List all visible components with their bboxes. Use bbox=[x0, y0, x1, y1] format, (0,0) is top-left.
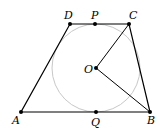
point-p bbox=[93, 22, 97, 26]
point-d bbox=[68, 22, 72, 26]
label-b: B bbox=[146, 114, 155, 127]
point-q bbox=[94, 110, 98, 114]
label-c: C bbox=[129, 9, 138, 22]
label-o: O bbox=[84, 63, 93, 76]
label-p: P bbox=[90, 9, 99, 22]
label-a: A bbox=[11, 114, 20, 127]
point-o bbox=[94, 66, 98, 70]
label-d: D bbox=[63, 9, 73, 22]
segment-ob bbox=[96, 68, 150, 112]
segment-oc bbox=[96, 24, 129, 68]
label-q: Q bbox=[91, 116, 100, 129]
geometry-diagram: A B C D P Q O bbox=[0, 0, 161, 131]
point-c bbox=[127, 22, 131, 26]
